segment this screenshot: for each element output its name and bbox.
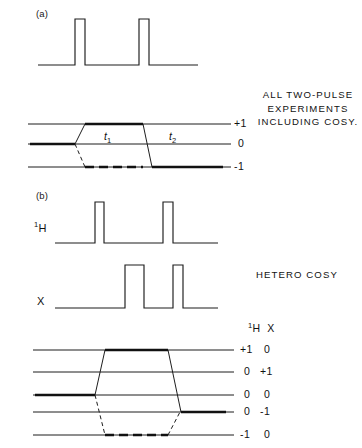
detection-time-label-t2: t2 [169,130,176,142]
panel-b-x-pulse-sequence [55,265,218,308]
level-label-a-plus1: +1 [234,117,247,129]
panel-a-pulse-sequence [38,19,198,65]
t1-subscript: 1 [107,136,111,145]
pulse-train-x-nucleus [55,265,218,308]
level-label-b-row2-x: 0 [264,388,270,400]
annotation-hetero-cosy: HETERO COSY [256,268,360,282]
pathway-ramp-up-dashed-b [168,412,180,435]
level-label-b-row4-x: 0 [264,428,270,440]
evolution-time-label-t1: t1 [104,130,111,142]
proton-element-top: H [38,222,46,234]
pathway-ramp-down-a [143,124,152,167]
annotation-all-two-pulse: ALL TWO-PULSE EXPERIMENTS INCLUDING COSY… [256,88,360,129]
column-header-x: X [267,322,274,334]
pathway-ramp-down-b [168,350,181,412]
panel-a-pathways [30,124,223,167]
t2-subscript: 2 [172,136,176,145]
pathway-ramp-down-dashed-b [95,395,105,435]
level-label-b-row1-x: +1 [260,365,273,377]
level-label-a-minus1: -1 [234,160,244,172]
channel-label-proton-top: 1H [34,222,47,234]
annotation-line-3: INCLUDING COSY. [256,115,360,129]
level-label-b-row3-x: -1 [260,405,270,417]
level-label-b-row3-proton: 0 [244,405,250,417]
panel-b-level-ticks [228,350,234,435]
pathway-ramp-down-dashed-a [75,144,85,167]
pathway-ramp-up-a [75,124,85,144]
panel-b-coherence-levels [33,350,228,435]
level-label-a-zero: 0 [238,137,244,149]
coherence-pathway-diagram [0,0,362,448]
figure-canvas: (a) t1 t2 +1 0 -1 ALL TWO-PULSE EXPERIME… [0,0,362,448]
level-label-b-row4-proton: -1 [240,428,250,440]
panel-a-level-ticks [225,124,231,167]
panel-tag-b: (b) [36,190,48,201]
column-header-nuclei: 1H X [248,322,275,334]
panel-tag-a: (a) [36,8,48,19]
panel-a-coherence-levels [28,124,225,167]
panel-b-proton-pulse-sequence [55,202,218,243]
annotation-line-1: ALL TWO-PULSE [256,88,360,102]
pulse-train-single-channel [38,19,198,65]
level-label-b-row2-proton: 0 [244,388,250,400]
level-label-b-row0-x: 0 [264,343,270,355]
annotation-hetero-cosy-line: HETERO COSY [256,268,360,282]
channel-label-x-nucleus: X [37,295,45,307]
x-element-label: X [37,295,45,307]
annotation-line-2: EXPERIMENTS [256,102,360,116]
level-label-b-row1-proton: 0 [244,365,250,377]
column-header-proton: H [253,322,261,334]
level-label-b-row0-proton: +1 [240,343,253,355]
panel-b-pathways [35,350,226,435]
pulse-train-proton [55,202,218,243]
